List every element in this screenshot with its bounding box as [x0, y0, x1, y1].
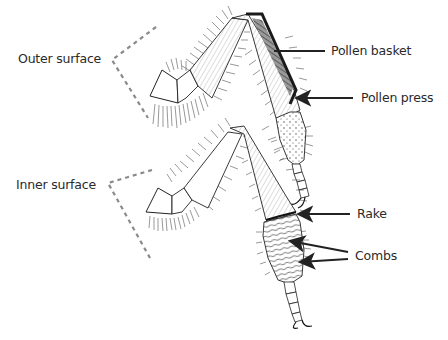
outer-surface-bracket — [112, 27, 156, 118]
label-pollen-press: Pollen press — [361, 90, 433, 105]
label-inner-surface: Inner surface — [16, 177, 96, 192]
inner-surface-bracket — [108, 170, 152, 258]
bee-leg-diagram: Outer surface Inner surface Pollen baske… — [0, 0, 448, 340]
outer-leg-illustration — [150, 6, 313, 208]
combs-arrow-lower — [300, 259, 348, 262]
label-combs: Combs — [355, 248, 397, 263]
label-rake: Rake — [357, 206, 387, 221]
label-outer-surface: Outer surface — [18, 51, 101, 66]
label-pollen-basket: Pollen basket — [331, 43, 411, 58]
